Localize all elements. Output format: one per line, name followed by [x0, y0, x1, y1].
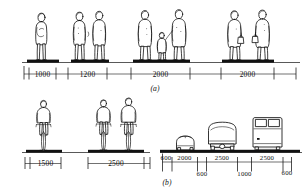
- figure-single-cyclist: [36, 100, 51, 151]
- plinth-a1: [27, 60, 59, 63]
- plinth-a3: [133, 60, 190, 63]
- vehicle-dim-top-2: 2000: [177, 154, 192, 161]
- dimension-a-1: 1000: [35, 70, 51, 79]
- technical-drawing: 1000 1200 2000 2000 (a): [0, 0, 308, 194]
- drawing-sheet: 1000 1200 2000 2000 (a): [0, 0, 308, 194]
- dimension-a-3: 2000: [153, 70, 169, 79]
- dimension-b-2: 2500: [108, 159, 124, 168]
- figure-single-pedestrian: [36, 13, 47, 60]
- figure-label-a: (a): [151, 84, 160, 93]
- vehicle-car: [177, 136, 195, 150]
- figure-adults-with-child: [138, 10, 186, 60]
- plinth-a2: [71, 60, 109, 63]
- plinth-b2: [88, 150, 144, 153]
- dimension-a-4: 2000: [240, 70, 256, 79]
- vehicle-truck: [209, 122, 237, 150]
- figure-two-pedestrians: [73, 11, 105, 59]
- dimension-b-1: 1500: [38, 159, 54, 168]
- vehicle-dim-top-4: 2500: [260, 154, 275, 161]
- figure-label-b: (b): [163, 178, 172, 187]
- panel-b: 1500 2500 600: [22, 98, 302, 187]
- vehicle-dim-bottom-1: 600: [197, 170, 208, 177]
- vehicle-dim-top-3: 2500: [215, 154, 230, 161]
- figure-pedestrians-with-bags: [228, 10, 270, 60]
- dimension-a-2: 1200: [80, 70, 96, 79]
- vehicle-dim-top-1: 600: [161, 154, 172, 161]
- panel-a: 1000 1200 2000 2000 (a): [22, 10, 300, 93]
- dimensions-panel-b-vehicles: 600 2000 2500 2500 600 1000 600: [161, 154, 293, 178]
- vehicle-dim-bottom-2: 1000: [237, 170, 252, 177]
- figure-two-cyclists: [96, 98, 136, 151]
- vehicle-bus: [253, 118, 282, 150]
- figure-vehicles: [177, 118, 283, 150]
- vehicle-dim-bottom-3: 600: [282, 169, 293, 176]
- dimensions-panel-b-left: 1500 2500: [25, 157, 150, 169]
- dimensions-panel-a: 1000 1200 2000 2000: [24, 66, 296, 80]
